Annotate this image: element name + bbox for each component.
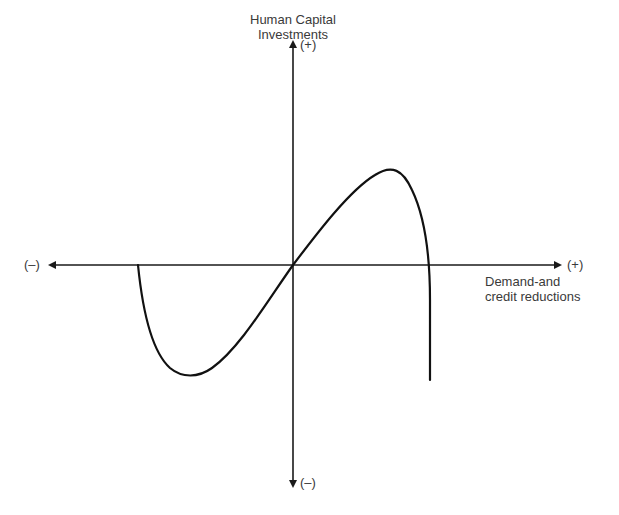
x-axis-title: Demand-and credit reductions xyxy=(485,274,580,304)
x-axis-title-line1: Demand-and xyxy=(485,274,580,289)
x-axis-negative-label: (–) xyxy=(24,257,40,272)
y-axis-negative-label: (–) xyxy=(300,475,316,490)
x-axis-positive-label: (+) xyxy=(567,257,583,272)
y-axis-title-line2: Investments xyxy=(243,27,343,42)
y-axis-title-line1: Human Capital xyxy=(243,12,343,27)
response-curve xyxy=(138,170,430,380)
diagram-canvas xyxy=(0,0,619,515)
x-axis-title-line2: credit reductions xyxy=(485,289,580,304)
y-axis-positive-label: (+) xyxy=(300,37,316,52)
y-axis-title: Human Capital Investments xyxy=(243,12,343,42)
